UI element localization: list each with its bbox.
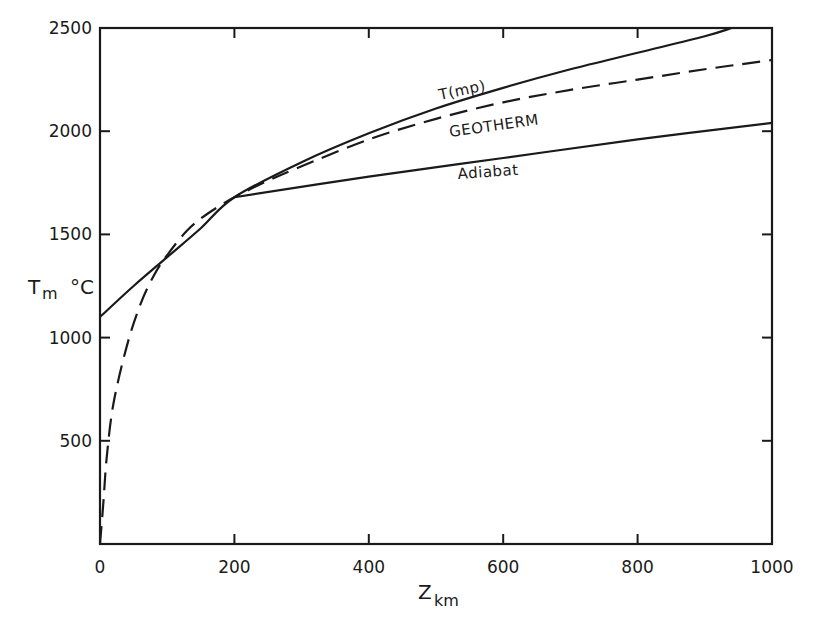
y-axis-title-sub: m <box>42 284 58 303</box>
x-tick-label: 400 <box>353 557 385 577</box>
x-tick-label: 800 <box>621 557 653 577</box>
y-axis-title-main: T <box>27 275 41 299</box>
x-axis-title-main: Z <box>418 580 432 604</box>
x-tick-label: 1000 <box>750 557 793 577</box>
y-axis-title: T m °C <box>27 275 94 303</box>
x-axis-title-sub: km <box>434 591 459 610</box>
y-tick-label: 2500 <box>49 18 92 38</box>
curve-tmp <box>100 28 732 317</box>
y-tick-label: 1500 <box>49 224 92 244</box>
axis-ticks <box>100 28 772 544</box>
x-tick-label: 0 <box>95 557 106 577</box>
y-tick-label: 500 <box>60 431 92 451</box>
curve-geotherm <box>100 60 772 544</box>
curve-label-adiabat: Adiabat <box>457 161 519 183</box>
chart: 020040060080010005001000150020002500 T(m… <box>0 0 814 625</box>
plot-frame <box>100 28 772 544</box>
x-axis-title: Z km <box>418 580 459 610</box>
curve-adiabat <box>234 123 772 197</box>
axes-frame <box>100 28 772 544</box>
curve-label-geotherm: GEOTHERM <box>448 111 540 141</box>
y-tick-label: 1000 <box>49 328 92 348</box>
axis-tick-labels: 020040060080010005001000150020002500 <box>49 18 794 577</box>
x-tick-label: 600 <box>487 557 519 577</box>
curves <box>100 28 772 544</box>
y-tick-label: 2000 <box>49 121 92 141</box>
x-tick-label: 200 <box>218 557 250 577</box>
y-axis-title-unit: °C <box>70 275 94 299</box>
